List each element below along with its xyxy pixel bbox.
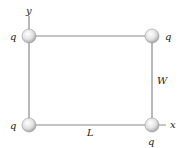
- charge-sphere-bottom-left: [22, 118, 36, 132]
- charge-sphere-bottom-right: [145, 118, 159, 132]
- width-label: W: [157, 75, 168, 86]
- charge-label-top-right: q: [165, 31, 171, 42]
- charge-label-bottom-right: q: [148, 136, 154, 147]
- length-label: L: [86, 127, 94, 138]
- charge-label-top-left: q: [10, 31, 16, 42]
- charge-sphere-top-right: [145, 29, 159, 43]
- charge-label-bottom-left: q: [10, 120, 16, 131]
- charge-sphere-top-left: [22, 29, 36, 43]
- y-axis-label: y: [25, 5, 32, 16]
- x-axis-label: x: [170, 119, 176, 130]
- rectangle-charge-diagram: y x L W q q q q: [0, 0, 184, 148]
